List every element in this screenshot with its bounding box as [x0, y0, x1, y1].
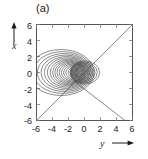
horizontal-axis-arrow-icon — [112, 140, 134, 145]
plot-canvas — [0, 0, 148, 159]
vertical-axis-arrow-icon — [11, 22, 16, 44]
figure-panel-a: (a) x y 6 4 2 0 -2 -4 -6 -6 -4 -2 0 2 4 … — [0, 0, 148, 159]
origin-convergence-blob — [73, 65, 80, 80]
